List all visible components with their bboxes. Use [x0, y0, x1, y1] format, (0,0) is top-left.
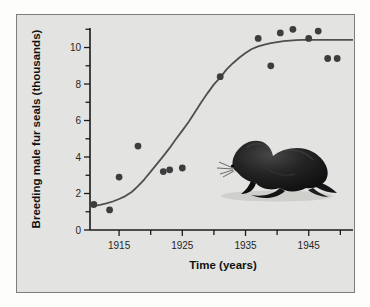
- figure-panel: 0246810 1915192519351945: [16, 14, 355, 293]
- seal-body: [232, 141, 327, 192]
- x-axis-ticks: 1915192519351945: [108, 230, 340, 251]
- data-point-1946.5: [315, 28, 322, 35]
- fur-seal-illustration: [217, 141, 337, 202]
- figure: 0246810 1915192519351945: [0, 0, 370, 307]
- data-point-1949.5: [334, 55, 341, 62]
- data-point-1939: [267, 62, 274, 69]
- y-axis-title: Breeding male fur seals (thousands): [30, 29, 42, 228]
- data-point-1922: [160, 168, 167, 175]
- x-tick-label-1945: 1945: [298, 240, 321, 251]
- seal-whisker: [223, 171, 234, 177]
- data-point-1915: [116, 174, 123, 181]
- y-tick-label-10: 10: [70, 42, 82, 53]
- x-axis-title: Time (years): [189, 259, 257, 271]
- y-axis-ticks: 0246810: [70, 29, 90, 235]
- data-point-1931: [217, 73, 224, 80]
- data-point-1925: [179, 165, 186, 172]
- y-tick-label-4: 4: [75, 152, 81, 163]
- data-point-1913.5: [106, 207, 113, 214]
- seal-whiskers: [217, 162, 234, 177]
- data-point-1948: [324, 55, 331, 62]
- y-tick-label-0: 0: [75, 225, 81, 236]
- y-tick-label-8: 8: [75, 79, 81, 90]
- data-point-1911: [90, 201, 97, 208]
- data-point-1937: [255, 35, 262, 42]
- seal-whisker: [219, 162, 233, 168]
- data-point-1940.5: [277, 30, 284, 37]
- x-tick-label-1925: 1925: [171, 240, 194, 251]
- data-point-1918: [135, 143, 142, 150]
- x-tick-label-1915: 1915: [108, 240, 131, 251]
- data-point-1942.5: [290, 26, 297, 33]
- data-point-1945: [305, 35, 312, 42]
- y-tick-label-6: 6: [75, 115, 81, 126]
- y-tick-label-2: 2: [75, 188, 81, 199]
- x-tick-label-1935: 1935: [234, 240, 257, 251]
- data-point-1923: [166, 166, 173, 173]
- seal-whisker: [220, 170, 233, 174]
- seal-whisker: [217, 168, 233, 169]
- chart-svg: 0246810 1915192519351945: [17, 15, 353, 291]
